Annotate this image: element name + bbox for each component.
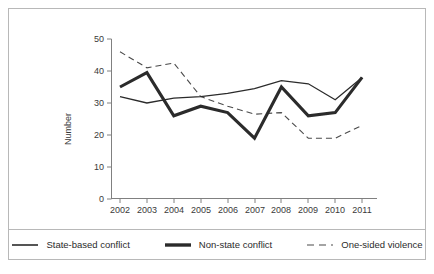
y-tick-label: 0 [99, 194, 104, 204]
plot-panel: Number 0 10 20 30 40 50 [9, 9, 425, 230]
x-axis-ticks: 2002 2003 2004 2005 2006 2007 2008 2009 … [110, 199, 372, 215]
y-tick-label: 20 [94, 130, 104, 140]
y-tick-label: 50 [94, 34, 104, 44]
chart-legend: State-based conflict Non-state conflict … [9, 230, 425, 259]
legend-swatch-solid-thick-line-icon [164, 240, 192, 250]
y-tick-label: 30 [94, 98, 104, 108]
figure-frame: Number 0 10 20 30 40 50 [8, 8, 426, 260]
legend-label: One-sided violence [341, 239, 422, 250]
x-tick-label: 2006 [218, 205, 238, 215]
legend-label: State-based conflict [46, 239, 129, 250]
y-tick-label: 40 [94, 66, 104, 76]
series-line-non-state-conflict [120, 73, 362, 139]
legend-swatch-dashed-line-icon [306, 240, 334, 250]
legend-item-state-based-conflict[interactable]: State-based conflict [11, 239, 129, 250]
legend-item-non-state-conflict[interactable]: Non-state conflict [164, 239, 272, 250]
series-layer [120, 52, 362, 138]
x-tick-label: 2008 [271, 205, 291, 215]
legend-label: Non-state conflict [199, 239, 272, 250]
x-tick-label: 2010 [325, 205, 345, 215]
y-axis-title: Number [63, 113, 73, 145]
x-tick-label: 2007 [245, 205, 265, 215]
x-tick-label: 2003 [137, 205, 157, 215]
x-tick-label: 2004 [164, 205, 184, 215]
x-tick-label: 2009 [298, 205, 318, 215]
y-axis-ticks: 0 10 20 30 40 50 [94, 34, 112, 204]
legend-swatch-solid-thin-line-icon [11, 240, 39, 250]
x-tick-label: 2005 [191, 205, 211, 215]
x-tick-label: 2002 [110, 205, 130, 215]
line-chart: Number 0 10 20 30 40 50 [9, 9, 425, 230]
x-tick-label: 2011 [352, 205, 371, 215]
y-tick-label: 10 [94, 162, 104, 172]
legend-item-one-sided-violence[interactable]: One-sided violence [306, 239, 422, 250]
